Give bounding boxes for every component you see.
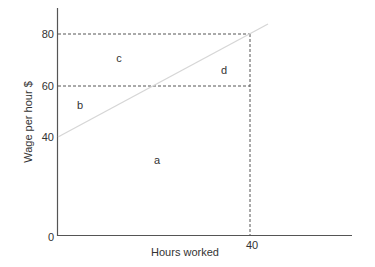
y-tick-40: 40 <box>42 131 54 143</box>
y-tick-60: 60 <box>42 80 54 92</box>
x-axis-title: Hours worked <box>151 246 219 258</box>
region-label-c: c <box>116 52 122 64</box>
y-axis-title: Wage per hour $ <box>22 81 34 163</box>
y-tick-0: 0 <box>48 231 54 243</box>
wage-diagram: 80 60 40 0 40 Hours worked Wage per hour… <box>0 0 375 267</box>
y-tick-80: 80 <box>42 28 54 40</box>
region-label-b: b <box>77 99 83 111</box>
region-label-d: d <box>221 64 227 76</box>
region-label-a: a <box>154 154 161 166</box>
wage-line <box>58 24 268 137</box>
x-tick-40: 40 <box>246 239 258 251</box>
